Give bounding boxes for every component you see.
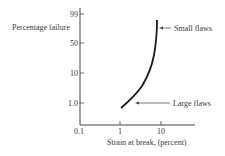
chart: 99 50 10 1.0 0.1 1 10 Percentage failure… [0, 0, 225, 156]
small-flaws-arrowhead-icon [159, 27, 163, 30]
y-tick-label-99: 99 [70, 10, 78, 19]
x-tick-label-0.1: 0.1 [74, 127, 84, 136]
failure-curve [121, 20, 157, 108]
x-axis-label: Strain at break, (percent) [107, 138, 187, 147]
x-tick-label-10: 10 [157, 127, 165, 136]
large-flaws-arrowhead-icon [135, 102, 139, 105]
small-flaws-label: Small flaws [174, 24, 212, 33]
large-flaws-label: Large flaws [173, 99, 211, 108]
x-tick-label-1: 1 [118, 127, 122, 136]
y-tick-label-50: 50 [70, 39, 78, 48]
y-axis-label: Percentage failure [12, 23, 70, 32]
y-tick-label-1: 1.0 [68, 99, 78, 108]
y-tick-label-10: 10 [70, 69, 78, 78]
